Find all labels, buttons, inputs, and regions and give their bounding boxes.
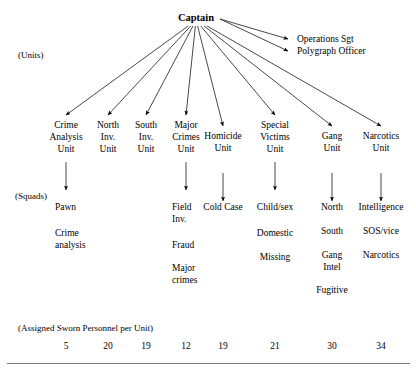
squad-narcotics-unit-1: Intelligence — [359, 202, 404, 214]
personnel-count-special-victims-unit: 21 — [270, 341, 280, 353]
personnel-count-crime-analysis-unit: 5 — [64, 341, 69, 353]
personnel-count-narcotics-unit: 34 — [376, 341, 386, 353]
unit-special-victims-unit: Special Victims Unit — [260, 120, 290, 155]
unit-gang-unit: Gang Unit — [322, 131, 343, 155]
squad-narcotics-unit-2: SOS/vice — [363, 226, 399, 238]
units-label: (Units) — [18, 50, 44, 62]
personnel-count-major-crimes-unit: 12 — [181, 341, 191, 353]
personnel-count-south-inv-unit: 19 — [141, 341, 151, 353]
squad-gang-unit-4: Fugitive — [316, 285, 348, 297]
squad-major-crimes-unit-1: Field Inv. — [172, 202, 192, 225]
squad-special-victims-unit-2: Domestic — [257, 228, 293, 240]
footer-divider — [7, 363, 410, 364]
personnel-count-gang-unit: 30 — [327, 341, 337, 353]
squad-gang-unit-3: Gang Intel — [322, 250, 343, 273]
personnel-count-north-inv-unit: 20 — [103, 341, 113, 353]
squad-special-victims-unit-1: Child/sex — [257, 202, 293, 214]
squad-narcotics-unit-3: Narcotics — [363, 250, 399, 262]
personnel-label: (Assigned Sworn Personnel per Unit) — [18, 323, 153, 335]
direct-report-2: Polygraph Officer — [297, 46, 366, 58]
squad-major-crimes-unit-2: Fraud — [172, 240, 194, 252]
direct-report-1: Operations Sgt — [297, 34, 354, 46]
squad-special-victims-unit-3: Missing — [260, 252, 291, 264]
unit-north-inv-unit: North Inv. Unit — [97, 120, 119, 155]
unit-major-crimes-unit: Major Crimes Unit — [172, 120, 199, 155]
unit-crime-analysis-unit: Crime Analysis Unit — [49, 120, 82, 155]
personnel-count-homicide-unit: 19 — [218, 341, 228, 353]
squad-gang-unit-2: South — [321, 226, 343, 238]
squads-label: (Squads) — [15, 191, 47, 203]
squad-gang-unit-1: North — [321, 202, 343, 214]
org-chart: Captain(Units)(Squads)(Assigned Sworn Pe… — [0, 0, 416, 373]
unit-south-inv-unit: South Inv. Unit — [135, 120, 157, 155]
unit-narcotics-unit: Narcotics Unit — [363, 131, 399, 155]
unit-homicide-unit: Homicide Unit — [204, 131, 241, 155]
squad-crime-analysis-unit-2: Crime analysis — [55, 228, 86, 251]
squad-homicide-unit-1: Cold Case — [203, 202, 242, 214]
root-node-captain: Captain — [178, 12, 214, 24]
squad-major-crimes-unit-3: Major crimes — [172, 263, 197, 286]
squad-crime-analysis-unit-1: Pawn — [55, 202, 76, 214]
